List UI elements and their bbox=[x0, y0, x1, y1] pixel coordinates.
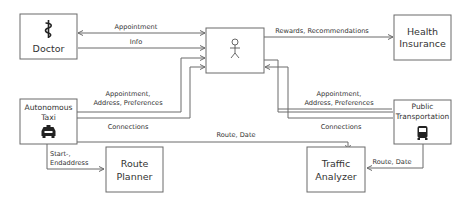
node-autonomous-taxi[interactable]: Autonomous Taxi bbox=[20, 99, 77, 144]
health-insurance-line1: Health bbox=[407, 26, 438, 37]
route-planner-line1: Route bbox=[121, 158, 149, 169]
node-traffic-analyzer[interactable]: Traffic Analyzer bbox=[307, 147, 365, 192]
label-info: Info bbox=[130, 38, 142, 46]
route-planner-line2: Planner bbox=[117, 171, 153, 182]
bus-icon bbox=[418, 126, 428, 140]
label-start: Start-, bbox=[50, 150, 71, 158]
diagram-canvas: Appointment Info Rewards, Recommendation… bbox=[0, 0, 468, 204]
label-endaddress: Endaddress bbox=[50, 159, 89, 167]
node-user[interactable] bbox=[206, 28, 264, 73]
doctor-label: Doctor bbox=[33, 43, 65, 54]
node-doctor[interactable]: Doctor bbox=[20, 14, 77, 59]
label-taxi-address: Address, Preferences bbox=[93, 99, 163, 107]
label-rewards: Rewards, Recommendations bbox=[275, 27, 369, 35]
label-taxi-connections: Connections bbox=[108, 123, 149, 131]
health-insurance-line2: Insurance bbox=[399, 38, 446, 49]
traffic-analyzer-line2: Analyzer bbox=[315, 171, 356, 182]
label-taxi-appointment: Appointment, bbox=[106, 90, 151, 98]
traffic-analyzer-line1: Traffic bbox=[321, 158, 351, 169]
pt-line2: Transportation bbox=[395, 112, 450, 121]
node-health-insurance[interactable]: Health Insurance bbox=[394, 15, 451, 60]
label-pt-address: Address, Preferences bbox=[304, 99, 374, 107]
taxi-line2: Taxi bbox=[40, 113, 56, 122]
label-pt-appointment: Appointment, bbox=[317, 90, 362, 98]
node-route-planner[interactable]: Route Planner bbox=[106, 147, 163, 192]
label-pt-route-date: Route, Date bbox=[372, 158, 411, 166]
label-taxi-route-date: Route, Date bbox=[216, 131, 255, 139]
taxi-line1: Autonomous bbox=[25, 103, 73, 112]
node-public-transportation[interactable]: Public Transportation bbox=[394, 100, 451, 144]
label-appointment: Appointment bbox=[115, 23, 158, 31]
pt-line1: Public bbox=[412, 102, 434, 111]
label-pt-connections: Connections bbox=[321, 123, 362, 131]
